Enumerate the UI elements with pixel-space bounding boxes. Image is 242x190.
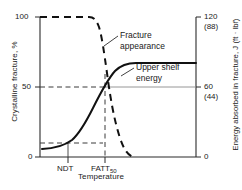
x-axis-ticks [68,157,105,163]
right-axis-title: Energy absorbed in fracture, J (ft · lbf… [231,6,240,164]
upper-shelf-energy-label-line1: Upper shelf [136,62,179,72]
y-right-tick-44: (44) [204,92,218,101]
y-right-tick-60: 60 [204,82,213,91]
upper-shelf-energy-label-line2: energy [136,73,162,83]
y-left-tick-100: 100 [15,12,28,21]
fracture-appearance-label-line2: appearance [120,41,165,51]
left-axis-ticks [35,17,40,157]
y-right-tick-0: 0 [204,152,208,161]
fracture-transition-chart: 100 50 0 120 (88) 60 (44) 0 NDT FATT50 C… [0,0,242,190]
x-tick-label-ndt: NDT [57,164,73,173]
y-left-tick-50: 50 [22,82,31,91]
fracture-appearance-label-line1: Fracture [120,30,152,40]
y-right-tick-88: (88) [204,22,218,31]
y-left-tick-0: 0 [28,152,32,161]
right-axis-ticks [196,17,201,157]
left-axis-title: Crystalline fracture, % [10,27,19,137]
x-axis-title: Temperature [78,172,124,181]
upper-shelf-energy-curve [42,63,196,149]
fracture-annotation-leader [104,36,118,46]
y-right-tick-120: 120 [204,12,217,21]
upper-shelf-annotation-leader [121,68,134,76]
